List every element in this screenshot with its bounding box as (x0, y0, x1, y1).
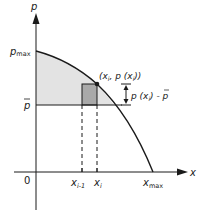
strip-rectangle (82, 84, 97, 105)
x-i-minus-1-label: xi-1 (70, 177, 85, 190)
p-max-label: pmax (9, 46, 31, 58)
difference-arrow-down-icon (124, 99, 129, 104)
p-bar-label: p (23, 99, 30, 111)
difference-label: p (xi) - p (130, 90, 169, 102)
x-i-label: xi (93, 177, 102, 190)
difference-arrow-up-icon (124, 85, 129, 90)
consumer-surplus-diagram: p x 0 pmax p xi-1 xi xmax (xi, p (xi)) p… (0, 0, 201, 212)
svg-text:p: p (23, 100, 30, 111)
y-axis-label: p (30, 1, 37, 12)
origin-label: 0 (24, 175, 30, 186)
point-label: (xi, p (xi)) (99, 71, 141, 82)
x-axis-arrow-icon (177, 169, 188, 176)
svg-text:p (xi) - p: p (xi) - p (130, 91, 169, 102)
x-axis-label: x (189, 167, 196, 178)
curve-point-marker (95, 82, 100, 87)
y-axis-arrow-icon (33, 13, 40, 24)
x-max-label: xmax (142, 177, 163, 190)
